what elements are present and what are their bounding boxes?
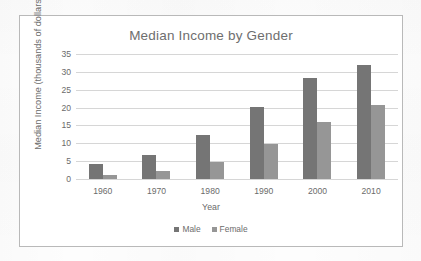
bar-group: 1970: [142, 54, 170, 179]
legend-item-male: Male: [174, 224, 200, 234]
bar-groups: 196019701980199020002010: [76, 54, 398, 179]
y-axis-tick-label: 0: [66, 174, 71, 184]
x-axis-tick-label: 2010: [362, 186, 381, 196]
x-axis-tick-label: 1970: [147, 186, 166, 196]
legend-swatch-icon: [212, 227, 217, 232]
legend-label: Female: [220, 224, 248, 234]
bar-female: [264, 144, 278, 179]
x-axis-tick-label: 1990: [254, 186, 273, 196]
legend-item-female: Female: [212, 224, 248, 234]
bar-male: [303, 78, 317, 179]
bar-female: [317, 122, 331, 179]
y-axis-tick-label: 35: [61, 49, 71, 59]
legend-swatch-icon: [174, 227, 179, 232]
bar-group: 2000: [303, 54, 331, 179]
y-axis-tick-label: 30: [61, 67, 71, 77]
bar-group: 2010: [357, 54, 385, 179]
y-axis-title: Median Income (thousands of dollars): [33, 0, 43, 153]
bar-male: [357, 65, 371, 179]
legend-label: Male: [182, 224, 200, 234]
y-axis-tick-label: 10: [61, 138, 71, 148]
gridline: 0: [76, 179, 398, 180]
plot-area: 05101520253035 196019701980199020002010: [76, 54, 398, 179]
bar-male: [142, 155, 156, 179]
x-axis-tick-label: 2000: [308, 186, 327, 196]
bar-group: 1960: [89, 54, 117, 179]
chart-legend: MaleFemale: [20, 224, 402, 234]
bar-male: [196, 135, 210, 179]
bar-female: [210, 162, 224, 180]
bar-female: [156, 171, 170, 179]
y-axis-tick-label: 15: [61, 120, 71, 130]
y-axis-tick-label: 20: [61, 103, 71, 113]
x-axis-tick-label: 1960: [93, 186, 112, 196]
bar-male: [89, 164, 103, 179]
bar-group: 1990: [250, 54, 278, 179]
bar-group: 1980: [196, 54, 224, 179]
chart-frame: Median Income by Gender Median Income (t…: [19, 15, 403, 247]
bar-male: [250, 107, 264, 180]
y-axis-tick-label: 25: [61, 85, 71, 95]
y-axis-tick-label: 5: [66, 156, 71, 166]
bar-female: [103, 175, 117, 179]
x-axis-tick-label: 1980: [201, 186, 220, 196]
chart-title: Median Income by Gender: [20, 28, 402, 43]
x-axis-title: Year: [20, 202, 402, 212]
bar-female: [371, 105, 385, 179]
